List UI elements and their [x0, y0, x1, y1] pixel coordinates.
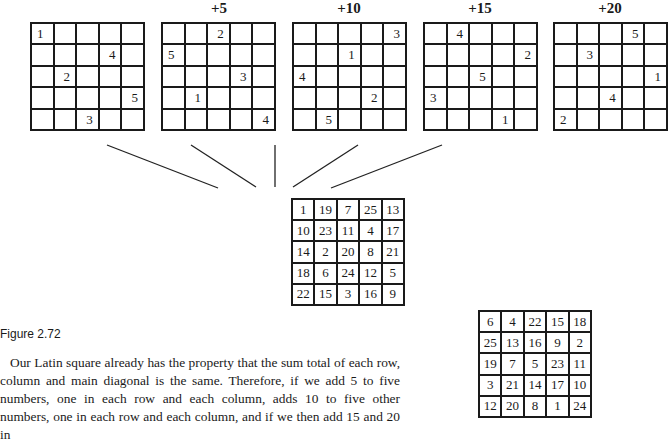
result-magic-square: 1197251310231141714220821186241252215316…	[291, 198, 405, 306]
grid-cell: 25	[359, 199, 381, 220]
grid-cell: 9	[546, 332, 568, 353]
grid-cell: 3	[479, 375, 501, 396]
grid-cell: 21	[382, 241, 404, 262]
grid-cell: 3	[337, 284, 359, 305]
grid-cell: 16	[524, 332, 546, 353]
grid-cell: 2	[314, 241, 336, 262]
grid-cell: 14	[292, 241, 314, 262]
grid-cell: 19	[479, 353, 501, 374]
grid-cell: 25	[479, 332, 501, 353]
grid-cell: 4	[359, 220, 381, 241]
grid-cell: 16	[359, 284, 381, 305]
grid-cell: 10	[292, 220, 314, 241]
grid-cell: 17	[546, 375, 568, 396]
grid-cell: 12	[479, 396, 501, 417]
grid-cell: 11	[569, 353, 591, 374]
grid-cell: 18	[292, 263, 314, 284]
grid-cell: 7	[501, 353, 523, 374]
grid-cell: 6	[479, 311, 501, 332]
grid-cell: 11	[337, 220, 359, 241]
grid-cell: 10	[569, 375, 591, 396]
grid-cell: 22	[292, 284, 314, 305]
grid-cell: 8	[359, 241, 381, 262]
second-magic-square: 6422151825131692197523113211417101220812…	[478, 310, 592, 418]
grid-cell: 15	[314, 284, 336, 305]
grid-cell: 22	[524, 311, 546, 332]
grid-cell: 1	[292, 199, 314, 220]
grid-cell: 2	[569, 332, 591, 353]
grid-cell: 12	[359, 263, 381, 284]
grid-cell: 20	[337, 241, 359, 262]
grid-cell: 7	[337, 199, 359, 220]
grid-cell: 18	[569, 311, 591, 332]
grid-cell: 9	[382, 284, 404, 305]
figure-caption: Figure 2.72	[0, 327, 61, 341]
grid-cell: 20	[501, 396, 523, 417]
grid-cell: 15	[546, 311, 568, 332]
grid-cell: 13	[382, 199, 404, 220]
grid-cell: 14	[524, 375, 546, 396]
paragraph-text: Our Latin square already has the propert…	[0, 354, 400, 443]
grid-cell: 17	[382, 220, 404, 241]
grid-cell: 6	[314, 263, 336, 284]
grid-cell: 19	[314, 199, 336, 220]
grid-cell: 1	[546, 396, 568, 417]
grid-cell: 8	[524, 396, 546, 417]
body-paragraph: Our Latin square already has the propert…	[0, 354, 400, 443]
grid-cell: 21	[501, 375, 523, 396]
grid-cell: 24	[569, 396, 591, 417]
grid-cell: 5	[382, 263, 404, 284]
grid-cell: 5	[524, 353, 546, 374]
grid-cell: 23	[546, 353, 568, 374]
grid-cell: 13	[501, 332, 523, 353]
grid-cell: 4	[501, 311, 523, 332]
grid-cell: 23	[314, 220, 336, 241]
grid-cell: 24	[337, 263, 359, 284]
